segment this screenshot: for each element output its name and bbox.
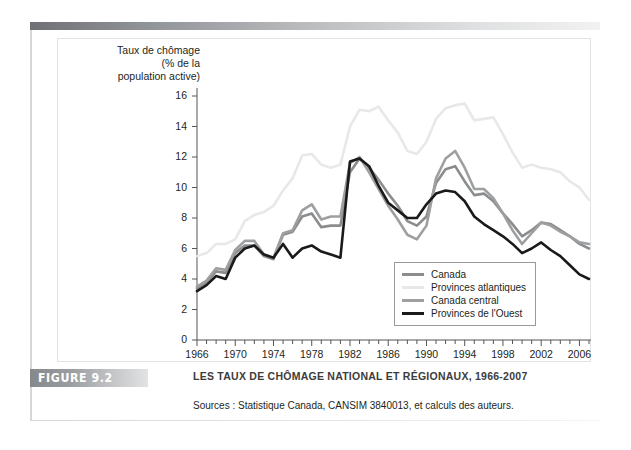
legend-swatch-icon — [402, 312, 424, 315]
y-tick-8: 8 — [161, 211, 187, 223]
x-tick-1974: 1974 — [253, 348, 293, 360]
legend-item-1: Provinces atlantiques — [402, 281, 526, 294]
x-tick-1994: 1994 — [445, 348, 485, 360]
figure-bottom-rule — [30, 420, 600, 421]
x-tick-1998: 1998 — [483, 348, 523, 360]
x-tick-1982: 1982 — [330, 348, 370, 360]
legend-swatch-icon — [402, 299, 424, 302]
x-tick-1990: 1990 — [406, 348, 446, 360]
figure-page: Taux de chômage (% de la population acti… — [0, 0, 631, 450]
legend-label: Canada central — [431, 294, 499, 307]
y-axis-title-line-2: (% de la — [88, 57, 200, 70]
x-tick-2002: 2002 — [521, 348, 561, 360]
y-tick-14: 14 — [161, 120, 187, 132]
x-tick-1978: 1978 — [292, 348, 332, 360]
y-tick-2: 2 — [161, 303, 187, 315]
y-tick-0: 0 — [161, 333, 187, 345]
y-tick-4: 4 — [161, 272, 187, 284]
chart-legend: CanadaProvinces atlantiquesCanada centra… — [394, 262, 536, 326]
y-axis-title-line-1: Taux de chômage — [88, 44, 200, 57]
figure-caption-title: LES TAUX DE CHÔMAGE NATIONAL ET RÉGIONAU… — [193, 370, 593, 382]
x-tick-1986: 1986 — [368, 348, 408, 360]
figure-number-badge: FIGURE 9.2 — [30, 369, 148, 387]
y-tick-16: 16 — [161, 89, 187, 101]
y-axis-title-line-3: population active) — [88, 70, 200, 83]
figure-top-rule — [30, 22, 600, 30]
figure-number-label: FIGURE 9.2 — [30, 371, 113, 385]
legend-label: Provinces atlantiques — [431, 281, 526, 294]
y-tick-6: 6 — [161, 242, 187, 254]
y-axis-title: Taux de chômage (% de la population acti… — [88, 44, 200, 83]
legend-swatch-icon — [402, 286, 424, 289]
legend-item-0: Canada — [402, 268, 526, 281]
y-tick-12: 12 — [161, 150, 187, 162]
legend-label: Provinces de l'Ouest — [431, 307, 522, 320]
x-tick-2006: 2006 — [559, 348, 599, 360]
legend-item-3: Provinces de l'Ouest — [402, 307, 526, 320]
y-tick-10: 10 — [161, 181, 187, 193]
legend-item-2: Canada central — [402, 294, 526, 307]
x-tick-1970: 1970 — [215, 348, 255, 360]
legend-swatch-icon — [402, 273, 424, 276]
x-tick-1966: 1966 — [177, 348, 217, 360]
figure-left-rule — [30, 30, 32, 420]
legend-label: Canada — [431, 268, 466, 281]
figure-source-note: Sources : Statistique Canada, CANSIM 384… — [193, 400, 593, 411]
